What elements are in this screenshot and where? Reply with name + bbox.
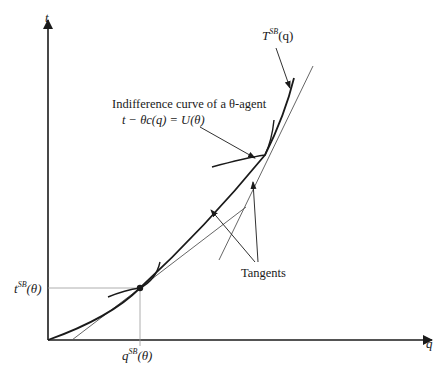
lower-indifference-curve bbox=[108, 262, 160, 297]
upper-indifference-curve bbox=[212, 120, 274, 167]
x-axis-label: q bbox=[426, 336, 433, 351]
tsb-pointer-arrow bbox=[276, 48, 290, 88]
upper-tangent-line bbox=[219, 66, 313, 260]
tangent-pointer-arrow-right bbox=[253, 182, 258, 262]
ic-label-line2: t − θc(q) = U(θ) bbox=[122, 113, 205, 127]
tangency-point bbox=[137, 285, 143, 291]
tsb-curve-label: TSB(q) bbox=[262, 27, 293, 43]
tangent-pointer-arrow-left bbox=[211, 210, 255, 262]
t-sb-theta-label: tSB(θ) bbox=[14, 280, 42, 296]
y-axis-label: t bbox=[45, 10, 49, 25]
q-sb-theta-label: qSB(θ) bbox=[122, 347, 152, 363]
diagram-canvas: t q TSB(q) Indifference curve of a θ-age… bbox=[0, 0, 443, 371]
ic-pointer-arrow bbox=[200, 127, 255, 158]
tangents-label: Tangents bbox=[241, 266, 286, 280]
ic-label-line1: Indifference curve of a θ-agent bbox=[112, 97, 267, 111]
lower-tangent-line bbox=[72, 207, 246, 340]
